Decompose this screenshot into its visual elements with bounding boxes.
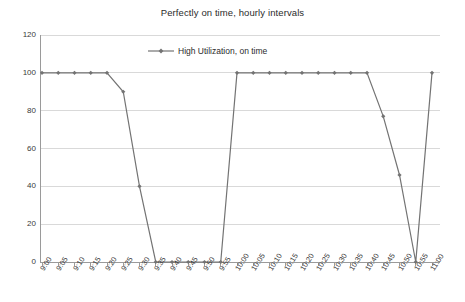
x-axis-tick-label: 10:15	[283, 252, 300, 272]
x-axis-tick-label: 10:20	[299, 252, 316, 272]
x-axis-tick-label: 9:30	[137, 256, 152, 273]
x-axis-tick-label: 10:40	[364, 252, 381, 272]
x-axis-tick-label: 10:35	[348, 252, 365, 272]
x-axis-tick-label: 9:05	[55, 256, 70, 273]
x-axis-tick-label: 9:00	[39, 256, 54, 273]
x-axis-tick-label: 10:25	[315, 252, 332, 272]
chart-legend: High Utilization, on time	[148, 46, 267, 56]
legend-item-label: High Utilization, on time	[178, 46, 267, 56]
x-axis-tick-label: 10:05	[250, 252, 267, 272]
x-axis-tick-label: 9:20	[104, 256, 119, 273]
x-axis-tick-label: 10:30	[332, 252, 349, 272]
x-axis-tick-label: 10:45	[380, 252, 397, 272]
x-axis-tick-label: 9:10	[72, 256, 87, 273]
x-axis-tick-label: 9:35	[153, 256, 168, 273]
x-axis-tick-label: 11:00	[429, 253, 446, 273]
x-axis-tick-label: 9:25	[120, 256, 135, 273]
x-axis-tick-label: 10:55	[413, 252, 430, 272]
x-axis-tick-label: 9:40	[169, 256, 184, 273]
x-axis-tick-label: 10:00	[234, 252, 251, 272]
x-axis-tick-label: 9:55	[218, 256, 233, 273]
x-axis-tick-label: 9:50	[202, 256, 217, 273]
chart-container: Perfectly on time, hourly intervals 1201…	[0, 0, 465, 302]
x-axis-tick-label: 10:50	[397, 252, 414, 272]
x-axis-tick-label: 9:45	[185, 256, 200, 273]
x-axis-tick-label: 9:15	[88, 256, 103, 273]
legend-line-marker-icon	[148, 46, 174, 56]
x-axis-tick-label: 10:10	[267, 252, 284, 272]
